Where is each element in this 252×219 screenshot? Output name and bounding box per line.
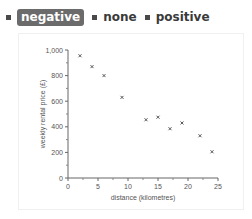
data-point-x-marker bbox=[91, 65, 94, 68]
y-tick-label: 1,000 bbox=[45, 47, 63, 54]
data-point-x-marker bbox=[145, 118, 148, 121]
y-axis-label: weekly rental price (£) bbox=[39, 80, 47, 149]
scatter-chart: 02004006008001,0000510152025 distance (k… bbox=[0, 0, 252, 219]
y-tick-label: 200 bbox=[51, 149, 63, 156]
y-tick-label: 400 bbox=[51, 123, 63, 130]
data-point-x-marker bbox=[211, 150, 214, 153]
data-point-x-marker bbox=[199, 134, 202, 137]
x-tick-label: 10 bbox=[124, 183, 132, 190]
data-point-x-marker bbox=[121, 96, 124, 99]
x-axis-label: distance (kilometres) bbox=[111, 194, 176, 202]
data-point-x-marker bbox=[103, 74, 106, 77]
data-point-x-marker bbox=[169, 127, 172, 130]
data-points bbox=[79, 54, 214, 153]
x-tick-label: 15 bbox=[154, 183, 162, 190]
y-tick-label: 800 bbox=[51, 72, 63, 79]
y-tick-label: 0 bbox=[59, 175, 63, 182]
x-tick-label: 25 bbox=[214, 183, 222, 190]
axes: 02004006008001,0000510152025 bbox=[45, 47, 222, 191]
data-point-x-marker bbox=[79, 54, 82, 57]
x-tick-label: 5 bbox=[96, 183, 100, 190]
x-tick-label: 20 bbox=[184, 183, 192, 190]
data-point-x-marker bbox=[157, 116, 160, 119]
x-tick-label: 0 bbox=[66, 183, 70, 190]
y-tick-label: 600 bbox=[51, 98, 63, 105]
data-point-x-marker bbox=[181, 121, 184, 124]
